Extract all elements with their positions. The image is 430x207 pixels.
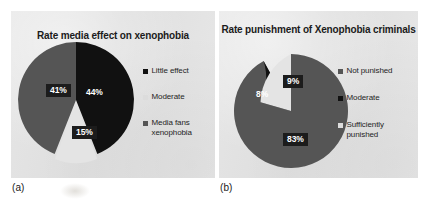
pie-a-label-little-effect: 44%: [86, 88, 103, 97]
legend-swatch-icon: [338, 123, 343, 128]
legend-a-label-little-effect: Little effect: [152, 66, 189, 76]
pie-b-label-sufficiently-punished: 9%: [283, 75, 303, 88]
legend-a-label-media-fans: Media fans xenophobia: [152, 118, 210, 138]
legend-a-item-media-fans: Media fans xenophobia: [143, 118, 209, 138]
caption-b: (b): [220, 182, 233, 193]
legend-swatch-icon: [338, 69, 343, 74]
pie-b-slice-not-punished: [234, 54, 348, 168]
pie-chart-a: [16, 38, 138, 162]
legend-b-item-sufficiently-punished: Sufficiently punished: [338, 120, 416, 140]
legend-b-label-not-punished: Not punished: [347, 66, 393, 76]
legend-b-item-not-punished: Not punished: [338, 66, 416, 76]
legend-a: Little effect Moderate Media fans xenoph…: [143, 66, 209, 154]
pie-a-label-moderate: 15%: [72, 126, 97, 139]
legend-a-label-moderate: Moderate: [152, 92, 185, 102]
legend-swatch-icon: [143, 95, 148, 100]
chart-title-b: Rate punishment of Xenophobia criminals: [219, 24, 418, 37]
legend-swatch-icon: [143, 69, 148, 74]
legend-b-label-moderate: Moderate: [347, 93, 380, 103]
legend-a-item-little-effect: Little effect: [143, 66, 209, 76]
legend-b-label-sufficiently-punished: Sufficiently punished: [347, 120, 417, 140]
legend-a-item-moderate: Moderate: [143, 92, 209, 102]
pie-b-label-not-punished: 83%: [283, 133, 308, 146]
pie-a-label-media-fans: 41%: [46, 84, 71, 97]
caption-a: (a): [12, 182, 25, 193]
legend-swatch-icon: [338, 96, 343, 101]
legend-b: Not punished Moderate Sufficiently punis…: [338, 66, 416, 157]
chart-title-a: Rate media effect on xenophobia: [11, 30, 215, 43]
figure-container: Rate media effect on xenophobia 41% 44% …: [0, 0, 430, 207]
pie-chart-b: [231, 51, 351, 171]
legend-b-item-moderate: Moderate: [338, 93, 416, 103]
pie-b-label-moderate: 8%: [256, 90, 268, 99]
scan-smudge: [60, 183, 90, 199]
legend-swatch-icon: [143, 121, 148, 126]
